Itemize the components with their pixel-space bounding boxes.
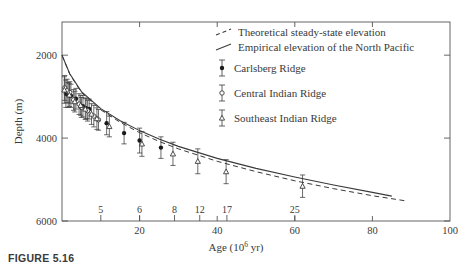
marker-open-circle — [220, 91, 224, 95]
anomaly-tick-label: 5 — [98, 204, 103, 215]
x-tick-label: 60 — [290, 225, 301, 236]
x-axis-title: Age (106 yr) — [208, 240, 263, 255]
x-tick-label: 100 — [442, 225, 458, 236]
anomaly-tick-label: 25 — [290, 204, 300, 215]
x-tick-label: 80 — [367, 225, 378, 236]
magnetic-anomaly-axis: 568121725 — [98, 204, 299, 221]
marker-filled-circle — [122, 131, 126, 135]
y-tick-label: 2000 — [36, 50, 57, 61]
y-tick-label: 4000 — [36, 133, 57, 144]
figure-container: 20406080100568121725200040006000Depth (m… — [0, 0, 474, 274]
depth-vs-age-chart: 20406080100568121725200040006000Depth (m… — [0, 0, 474, 274]
legend-label-theoretical: Theoretical steady-state elevation — [238, 26, 386, 38]
legend-swatch-empirical — [216, 44, 231, 50]
empirical-curve — [62, 55, 392, 196]
marker-filled-circle — [104, 121, 108, 125]
legend-label-carlsberg: Carlsberg Ridge — [234, 62, 306, 74]
legend-swatch-theoretical — [216, 29, 231, 35]
y-axis-title: Depth (m) — [12, 98, 25, 144]
figure-caption: FIGURE 5.16 — [8, 252, 74, 264]
anomaly-tick-label: 12 — [195, 204, 205, 215]
theoretical-curve — [62, 55, 407, 201]
legend-label-central-indian: Central Indian Ridge — [234, 87, 326, 99]
legend-label-empirical: Empirical elevation of the North Pacific — [238, 41, 414, 53]
y-tick-label: 6000 — [36, 216, 57, 227]
anomaly-tick-label: 8 — [172, 204, 177, 215]
marker-open-triangle — [219, 115, 224, 120]
series-carlsberg-ridge — [63, 80, 163, 158]
anomaly-tick-label: 17 — [222, 204, 232, 215]
marker-open-triangle — [224, 169, 229, 174]
x-tick-label: 40 — [212, 225, 223, 236]
x-tick-label: 20 — [134, 225, 145, 236]
legend: Theoretical steady-state elevationEmpiri… — [216, 26, 414, 127]
marker-filled-circle — [159, 145, 163, 149]
marker-open-triangle — [195, 159, 200, 164]
marker-open-triangle — [300, 183, 305, 188]
anomaly-tick-label: 6 — [137, 204, 142, 215]
marker-filled-circle — [220, 66, 224, 70]
marker-open-triangle — [170, 151, 175, 156]
legend-label-southeast-indian: Southeast Indian Ridge — [234, 112, 337, 124]
y-axis: 200040006000 — [36, 50, 450, 227]
